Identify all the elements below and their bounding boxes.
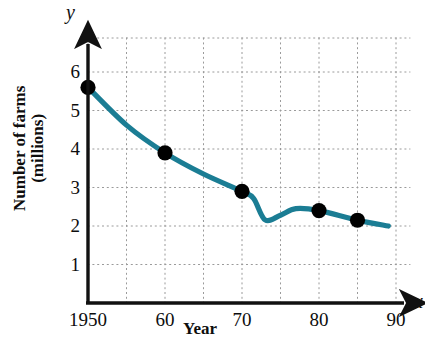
- data-point-marker: [350, 213, 365, 228]
- gridlines-horizontal: [88, 38, 410, 265]
- y-axis-title-line-2: (millions): [29, 68, 47, 228]
- gridlines-vertical: [88, 38, 396, 303]
- y-axis-tick-label: 1: [54, 255, 80, 274]
- y-axis-tick-label: 2: [54, 216, 80, 235]
- chart-figure: y x 123456 195060708090 Number of farms …: [0, 0, 425, 342]
- y-axis-title-line-1: Number of farms: [10, 86, 29, 211]
- chart-plot-area: [0, 0, 425, 342]
- y-axis-title: Number of farms (millions): [11, 68, 48, 228]
- data-curve: [88, 87, 388, 226]
- x-axis-title: Year: [0, 320, 400, 338]
- y-axis-tick-label: 3: [54, 178, 80, 197]
- data-point-markers: [80, 80, 365, 228]
- y-axis-tick-label: 6: [54, 62, 80, 81]
- data-point-marker: [157, 145, 172, 160]
- y-axis-tick-label: 5: [54, 101, 80, 120]
- y-axis-tick-label: 4: [54, 139, 80, 158]
- x-axis-variable-label: x: [414, 291, 423, 311]
- y-axis-variable-label: y: [66, 2, 75, 22]
- data-point-marker: [234, 184, 249, 199]
- data-point-marker: [311, 203, 326, 218]
